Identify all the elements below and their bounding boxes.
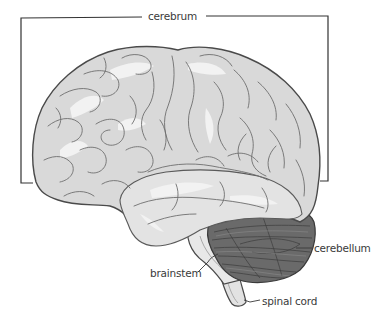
- brainstem-label: brainstem: [150, 267, 201, 279]
- cerebrum: [33, 47, 320, 247]
- spinal-cord-label: spinal cord: [262, 295, 317, 307]
- cerebellum-label: cerebellum: [314, 242, 371, 254]
- brain-diagram: cerebrum cerebellum brainstem spinal cor…: [0, 0, 378, 323]
- cerebrum-label: cerebrum: [148, 10, 197, 22]
